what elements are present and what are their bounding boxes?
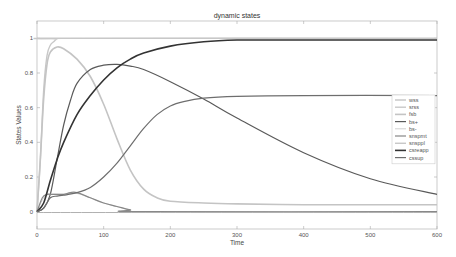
legend-entry-csreapp: csreapp (409, 147, 429, 153)
y-tick-label: 1 (30, 35, 34, 41)
chart-title: dynamic states (214, 12, 261, 20)
y-tick-label: 0 (30, 209, 34, 215)
y-tick-label: 0.4 (25, 139, 34, 145)
y-tick-label: 0.8 (25, 70, 34, 76)
y-axis-label: States Values (15, 104, 22, 144)
legend-entry-snspmt: snspmt (409, 133, 427, 139)
legend-entry-wss: wss (408, 97, 419, 103)
legend-entry-bs+: bs+ (409, 119, 418, 125)
x-tick-label: 500 (365, 232, 376, 238)
y-tick-label: 0.2 (25, 174, 34, 180)
legend: wsssrssfsbbs+bs-snspmtsnspplcsreappcssup (392, 95, 435, 164)
legend-entry-cssup: cssup (409, 155, 423, 161)
y-tick-label: 0.6 (25, 105, 34, 111)
x-tick-label: 100 (99, 232, 110, 238)
x-tick-label: 0 (35, 232, 39, 238)
line-chart: dynamic states 010020030040050060000.20.… (0, 0, 456, 257)
plot-area (37, 21, 437, 229)
x-tick-label: 600 (432, 232, 443, 238)
legend-entry-srss: srss (409, 104, 419, 110)
x-tick-label: 400 (299, 232, 310, 238)
chart-figure: dynamic states 010020030040050060000.20.… (0, 0, 456, 257)
legend-entry-snsppl: snsppl (409, 140, 425, 146)
legend-entry-fsb: fsb (409, 111, 416, 117)
x-axis-label: Time (230, 239, 245, 246)
legend-entry-bs-: bs- (409, 126, 417, 132)
x-tick-label: 300 (232, 232, 243, 238)
x-tick-label: 200 (165, 232, 176, 238)
